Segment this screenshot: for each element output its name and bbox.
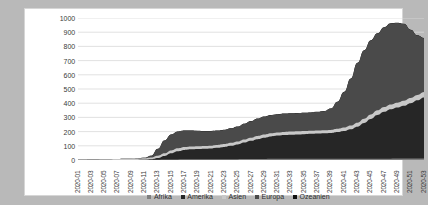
y-axis-tick: 200 bbox=[64, 128, 75, 135]
y-axis-tick: 700 bbox=[64, 57, 75, 64]
x-axis-tick: 2020-05 bbox=[100, 171, 107, 193]
x-axis-tick: 2020-43 bbox=[353, 171, 360, 193]
legend-swatch-icon bbox=[181, 195, 185, 199]
x-axis-tick: 2020-23 bbox=[220, 171, 227, 193]
chart-card: 10009008007006005004003002001000 2020-01… bbox=[24, 8, 403, 196]
legend-label: Afrika bbox=[154, 193, 172, 201]
legend-label: Asien bbox=[229, 193, 247, 201]
y-axis-tick: 500 bbox=[64, 86, 75, 93]
stacked-area-svg bbox=[78, 18, 424, 160]
x-axis-tick: 2020-01 bbox=[74, 171, 81, 193]
y-axis-tick: 600 bbox=[64, 71, 75, 78]
legend-swatch-icon bbox=[293, 195, 297, 199]
legend-label: Amerika bbox=[187, 193, 213, 201]
legend-item-amerika[interactable]: Amerika bbox=[181, 193, 213, 201]
y-axis-tick: 0 bbox=[71, 157, 75, 164]
legend-item-asien[interactable]: Asien bbox=[222, 193, 246, 201]
x-axis-tick: 2020-27 bbox=[247, 171, 254, 193]
y-axis-tick: 300 bbox=[64, 114, 75, 121]
x-axis-tick: 2020-41 bbox=[340, 171, 347, 193]
legend-swatch-icon bbox=[222, 195, 226, 199]
chart-legend: AfrikaAmerikaAsienEuropaOzeanien bbox=[49, 193, 428, 201]
y-axis-tick: 1000 bbox=[60, 15, 75, 22]
x-axis-tick: 2020-25 bbox=[233, 171, 240, 193]
legend-item-afrika[interactable]: Afrika bbox=[147, 193, 171, 201]
y-axis-tick: 100 bbox=[64, 142, 75, 149]
legend-item-ozeanien[interactable]: Ozeanien bbox=[293, 193, 329, 201]
x-axis-tick: 2020-47 bbox=[380, 171, 387, 193]
plot-area bbox=[78, 18, 424, 160]
x-axis-tick: 2020-17 bbox=[180, 171, 187, 193]
x-axis-tick: 2020-19 bbox=[193, 171, 200, 193]
legend-item-europa[interactable]: Europa bbox=[255, 193, 284, 201]
x-axis-tick: 2020-33 bbox=[286, 171, 293, 193]
x-axis-tick: 2020-51 bbox=[406, 171, 413, 193]
x-axis-tick: 2020-53 bbox=[420, 171, 427, 193]
x-axis-tick: 2020-09 bbox=[127, 171, 134, 193]
x-axis-tick: 2020-35 bbox=[300, 171, 307, 193]
x-axis-tick: 2020-13 bbox=[153, 171, 160, 193]
x-axis-tick: 2020-07 bbox=[113, 171, 120, 193]
legend-label: Ozeanien bbox=[300, 193, 330, 201]
x-axis-tick: 2020-37 bbox=[313, 171, 320, 193]
x-axis-tick: 2020-29 bbox=[260, 171, 267, 193]
x-axis-tick: 2020-03 bbox=[87, 171, 94, 193]
y-axis-tick: 400 bbox=[64, 100, 75, 107]
x-axis-tick: 2020-49 bbox=[393, 171, 400, 193]
y-axis: 10009008007006005004003002001000 bbox=[52, 18, 78, 160]
x-axis-tick: 2020-11 bbox=[140, 171, 147, 193]
y-axis-tick: 800 bbox=[64, 43, 75, 50]
legend-swatch-icon bbox=[255, 195, 259, 199]
x-axis-tick: 2020-21 bbox=[207, 171, 214, 193]
y-axis-tick: 900 bbox=[64, 29, 75, 36]
plot-area-wrapper: 10009008007006005004003002001000 bbox=[52, 18, 424, 160]
x-axis-tick: 2020-15 bbox=[167, 171, 174, 193]
x-axis-tick: 2020-45 bbox=[366, 171, 373, 193]
legend-label: Europa bbox=[262, 193, 285, 201]
x-axis: 2020-012020-032020-052020-072020-092020-… bbox=[78, 161, 424, 193]
x-axis-tick: 2020-31 bbox=[273, 171, 280, 193]
legend-swatch-icon bbox=[147, 195, 151, 199]
x-axis-tick: 2020-39 bbox=[326, 171, 333, 193]
